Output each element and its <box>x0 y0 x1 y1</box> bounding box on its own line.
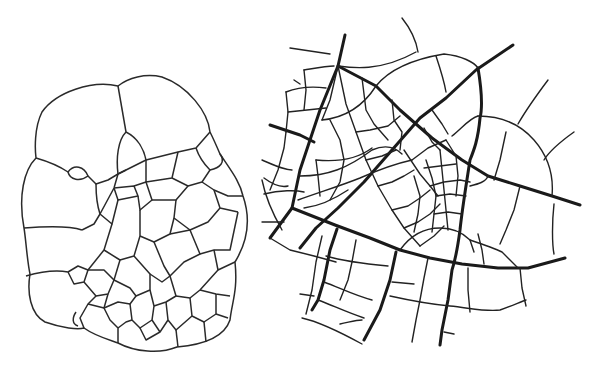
figure-canvas <box>0 0 596 368</box>
city-street-plan-drawing <box>262 18 580 345</box>
cell-tissue-drawing <box>22 76 248 352</box>
